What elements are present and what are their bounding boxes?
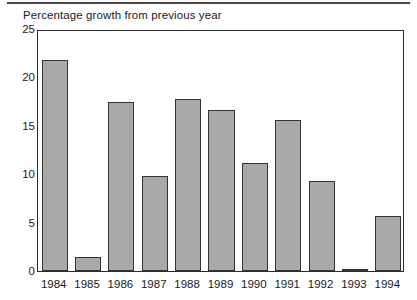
y-tick-label-20: 20 <box>9 73 35 85</box>
x-tick-label-1991: 1991 <box>274 278 300 290</box>
top-divider-rule <box>7 2 410 4</box>
x-tick-label-1989: 1989 <box>208 278 234 290</box>
bar-1989 <box>208 110 234 271</box>
x-tick-label-1992: 1992 <box>308 278 334 290</box>
bar-series-container <box>38 31 403 271</box>
x-axis-tick-labels: 1984198519861987198819891990199119921993… <box>0 278 417 294</box>
bar-1987 <box>142 176 168 271</box>
x-tick-label-1993: 1993 <box>341 278 367 290</box>
x-tick-label-1988: 1988 <box>174 278 200 290</box>
bar-1988 <box>175 99 201 271</box>
x-tick-label-1985: 1985 <box>74 278 100 290</box>
bar-1992 <box>309 181 335 271</box>
plot-area <box>37 30 404 272</box>
bar-1993 <box>342 269 368 272</box>
y-tick-label-25: 25 <box>9 24 35 36</box>
x-tick-label-1984: 1984 <box>41 278 67 290</box>
chart-title: Percentage growth from previous year <box>23 8 222 22</box>
bar-1990 <box>242 163 268 271</box>
y-tick-label-10: 10 <box>9 169 35 181</box>
x-tick-label-1990: 1990 <box>241 278 267 290</box>
bar-1985 <box>75 257 101 271</box>
bar-1994 <box>375 216 401 271</box>
x-tick-label-1987: 1987 <box>141 278 167 290</box>
bar-1986 <box>108 102 134 271</box>
x-tick-label-1994: 1994 <box>375 278 401 290</box>
bar-1991 <box>275 120 301 271</box>
y-tick-label-0: 0 <box>9 266 35 278</box>
bar-chart-figure: Percentage growth from previous year 051… <box>0 0 417 300</box>
y-tick-label-5: 5 <box>9 218 35 230</box>
bar-1984 <box>42 60 68 271</box>
x-tick-label-1986: 1986 <box>108 278 134 290</box>
y-axis-tick-labels: 0510152025 <box>5 30 35 272</box>
y-tick-label-15: 15 <box>9 121 35 133</box>
